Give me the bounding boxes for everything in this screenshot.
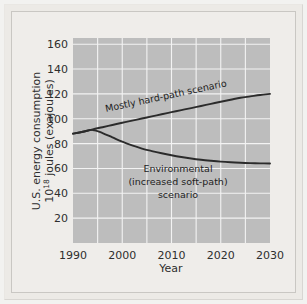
- series-label-environmental-line1: Environmental: [143, 163, 212, 174]
- x-tick-label: 2030: [256, 249, 284, 262]
- figure-container: 20406080100120140160 1990200020102020203…: [0, 0, 307, 304]
- line-chart: 20406080100120140160 1990200020102020203…: [0, 0, 307, 304]
- x-axis-tick-labels: 19902000201020202030: [59, 249, 284, 262]
- x-tick-label: 2020: [207, 249, 235, 262]
- y-axis-title-line2: 1018 joules (exajoules): [42, 79, 56, 203]
- x-tick-label: 1990: [59, 249, 87, 262]
- y-tick-label: 60: [54, 162, 68, 175]
- y-axis-title-line2-rest: joules (exajoules): [43, 79, 56, 179]
- y-axis-title-group: U.S. energy consumption 1018 joules (exa…: [30, 72, 56, 211]
- x-axis-title: Year: [158, 262, 183, 275]
- y-tick-label: 80: [54, 138, 68, 151]
- x-tick-label: 2010: [158, 249, 186, 262]
- x-tick-label: 2000: [108, 249, 136, 262]
- y-tick-label: 140: [47, 63, 68, 76]
- series-label-environmental-line2: (increased soft-path): [128, 176, 227, 187]
- series-label-environmental-line3: scenario: [158, 189, 198, 200]
- y-tick-label: 160: [47, 38, 68, 51]
- y-axis-title-line2-exponent: 18: [42, 179, 51, 189]
- y-axis-title-line2-prefix: 10: [43, 189, 56, 203]
- y-tick-label: 40: [54, 187, 68, 200]
- y-tick-label: 20: [54, 212, 68, 225]
